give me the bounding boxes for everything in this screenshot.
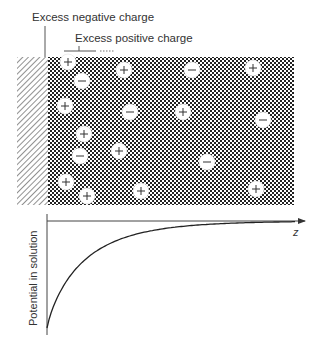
positive-ion-icon — [116, 62, 132, 78]
positive-ion-icon — [79, 188, 95, 204]
positive-ion-icon — [57, 98, 73, 114]
positive-ion-icon — [58, 174, 74, 190]
positive-ion-icon — [76, 126, 92, 142]
positive-ion-icon — [245, 60, 261, 76]
negative-ion-icon — [122, 104, 138, 120]
diagram-canvas — [0, 0, 321, 349]
x-axis-label: z — [293, 226, 299, 238]
negative-ion-icon — [199, 154, 215, 170]
positive-ion-icon — [111, 143, 127, 159]
electrode-region — [17, 57, 48, 205]
negative-ion-icon — [72, 148, 88, 164]
potential-curve — [47, 222, 295, 328]
positive-ion-icon — [133, 183, 149, 199]
positive-ion-icon — [248, 181, 264, 197]
positive-ion-icon — [175, 104, 191, 120]
negative-ion-icon — [184, 62, 200, 78]
y-axis-label: Potential in solution — [27, 231, 39, 326]
negative-ion-icon — [74, 73, 90, 89]
negative-ion-icon — [255, 112, 271, 128]
negative-charge-label: Excess negative charge — [32, 11, 154, 23]
positive-ion-icon — [60, 54, 76, 70]
positive-charge-label: Excess positive charge — [75, 32, 193, 44]
